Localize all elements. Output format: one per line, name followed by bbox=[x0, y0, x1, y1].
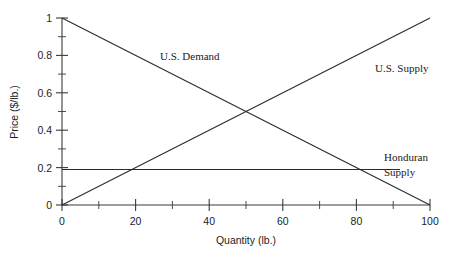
annotation-us-supply: U.S. Supply bbox=[375, 62, 429, 74]
x-tick-label-100: 100 bbox=[421, 215, 439, 227]
y-tick-label-1: 1 bbox=[46, 12, 52, 24]
x-tick-label-0: 0 bbox=[59, 215, 65, 227]
y-tick-labels: 1 0.8 0.6 0.4 0.2 0 bbox=[37, 12, 52, 211]
annotation-honduran-supply-line2: Supply bbox=[384, 166, 416, 178]
annotation-us-demand: U.S. Demand bbox=[160, 50, 220, 62]
supply-demand-chart: 1 0.8 0.6 0.4 0.2 0 0 20 40 60 80 100 Qu… bbox=[0, 0, 463, 254]
chart-svg: 1 0.8 0.6 0.4 0.2 0 0 20 40 60 80 100 Qu… bbox=[0, 0, 463, 254]
x-tick-labels: 0 20 40 60 80 100 bbox=[59, 215, 439, 227]
x-tick-label-60: 60 bbox=[277, 215, 289, 227]
y-tick-label-0.4: 0.4 bbox=[37, 124, 52, 136]
data-series-group bbox=[62, 18, 430, 205]
x-tick-label-40: 40 bbox=[203, 215, 215, 227]
y-tick-label-0.2: 0.2 bbox=[37, 162, 52, 174]
x-tick-label-80: 80 bbox=[351, 215, 363, 227]
x-tick-label-20: 20 bbox=[130, 215, 142, 227]
y-tick-label-0.6: 0.6 bbox=[37, 87, 52, 99]
y-axis-title: Price ($/lb.) bbox=[8, 85, 20, 139]
y-tick-label-0.8: 0.8 bbox=[37, 49, 52, 61]
y-tick-label-0: 0 bbox=[46, 199, 52, 211]
x-axis-title: Quantity (lb.) bbox=[216, 234, 276, 246]
annotation-honduran-supply-line1: Honduran bbox=[384, 151, 428, 163]
